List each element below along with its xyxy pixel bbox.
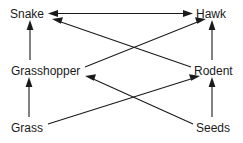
edge-snake-hawk — [48, 10, 193, 17]
node-rodent: Rodent — [194, 65, 233, 77]
node-snake: Snake — [10, 8, 44, 20]
food-web-diagram: Snake Hawk Grasshopper Rodent Grass Seed… — [0, 0, 243, 143]
edge-grass-grasshopper — [26, 77, 33, 117]
node-grasshopper: Grasshopper — [11, 65, 80, 77]
edge-grasshopper-snake — [27, 20, 34, 60]
edge-seeds-rodent — [209, 77, 216, 117]
node-seeds: Seeds — [196, 122, 230, 134]
edge-rodent-snake — [52, 17, 191, 67]
edge-rodent-hawk — [209, 20, 216, 60]
node-hawk: Hawk — [196, 8, 226, 20]
edge-grasshopper-hawk — [85, 17, 206, 67]
edge-seeds-grasshopper — [85, 74, 193, 124]
node-grass: Grass — [11, 122, 43, 134]
